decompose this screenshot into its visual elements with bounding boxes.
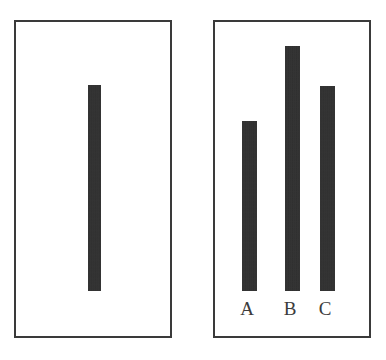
- bar-a: [242, 121, 257, 291]
- bar-label-c: C: [312, 299, 338, 319]
- bar-c: [320, 86, 335, 291]
- bar-label-b: B: [277, 299, 303, 319]
- bar-label-a: A: [234, 299, 260, 319]
- reference-panel: [14, 20, 172, 338]
- bar-reference: [88, 85, 101, 291]
- bar-b: [285, 46, 300, 291]
- figure-canvas: A B C: [0, 0, 386, 360]
- comparison-panel: [213, 20, 371, 338]
